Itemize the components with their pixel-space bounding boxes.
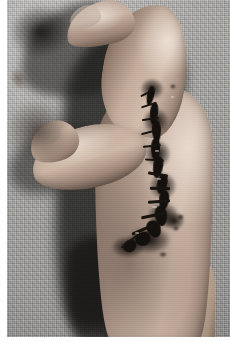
clinical-photograph [7, 0, 230, 337]
print-margin-left [0, 0, 7, 343]
photo-caption [0, 337, 230, 343]
photo-vignette [7, 0, 230, 337]
photo-frame [0, 0, 230, 343]
